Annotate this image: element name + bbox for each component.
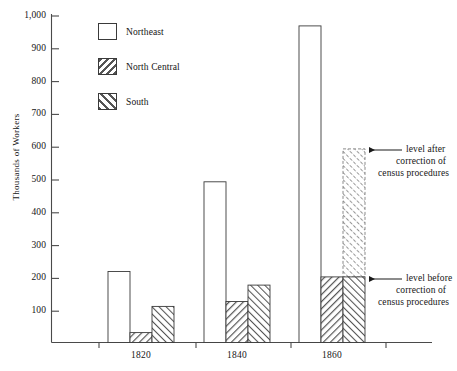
bar-group-1840 xyxy=(204,182,270,343)
y-tick-label-1000: 1,000 xyxy=(0,10,46,20)
legend-item-northeast: Northeast xyxy=(98,23,164,40)
y-tick-label-600: 600 xyxy=(0,141,46,151)
y-tick-label-200: 200 xyxy=(0,272,46,282)
x-axis xyxy=(52,343,433,349)
y-axis xyxy=(52,14,60,343)
legend-swatch-south xyxy=(98,93,117,110)
bar-1860-south xyxy=(343,277,365,343)
bar-1820-northeast xyxy=(108,272,130,343)
y-tick-label-800: 800 xyxy=(0,76,46,86)
bar-1820-south xyxy=(152,306,174,342)
annotation-before-line1: level before xyxy=(364,272,457,284)
annotation-before-line3: census procedures xyxy=(364,296,457,308)
bar-1840-northeast xyxy=(204,182,226,343)
x-tick-label-1820: 1820 xyxy=(111,350,171,360)
y-tick-label-400: 400 xyxy=(0,207,46,217)
bar-1840-north-central xyxy=(226,302,248,343)
legend-item-north-central: North Central xyxy=(98,58,180,75)
x-tick-label-1840: 1840 xyxy=(207,350,267,360)
legend-swatch-north-central xyxy=(98,58,117,75)
annotation-level-after: level after correction of census procedu… xyxy=(364,143,457,180)
y-axis-title: Thousands of Workers xyxy=(11,97,21,217)
bar-1860-north-central xyxy=(321,277,343,343)
bar-group-1860 xyxy=(299,26,365,343)
legend-swatch-northeast xyxy=(98,23,117,40)
annotation-after-line1: level after xyxy=(364,143,457,155)
bar-1840-south xyxy=(248,285,270,342)
bar-1820-north-central xyxy=(130,333,152,343)
annotation-level-before: level before correction of census proced… xyxy=(364,272,457,309)
y-tick-label-100: 100 xyxy=(0,305,46,315)
legend-label-northeast: Northeast xyxy=(126,27,164,37)
y-tick-label-900: 900 xyxy=(0,43,46,53)
legend-label-north-central: North Central xyxy=(126,62,180,72)
bar-1860-south-corrected xyxy=(343,149,365,277)
annotation-after-line2: correction of xyxy=(364,155,457,167)
y-tick-label-300: 300 xyxy=(0,240,46,250)
legend-label-south: South xyxy=(126,97,149,107)
annotation-after-line3: census procedures xyxy=(364,167,457,179)
bar-1860-northeast xyxy=(299,26,321,343)
annotation-before-line2: correction of xyxy=(364,284,457,296)
x-tick-label-1860: 1860 xyxy=(302,350,362,360)
y-tick-label-700: 700 xyxy=(0,108,46,118)
bar-group-1820 xyxy=(108,272,174,343)
legend-item-south: South xyxy=(98,93,149,110)
y-tick-label-500: 500 xyxy=(0,174,46,184)
